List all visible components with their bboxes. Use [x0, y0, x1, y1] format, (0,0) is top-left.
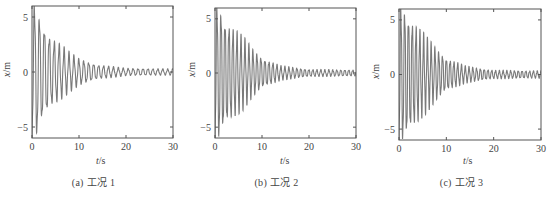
y-axis-label: x/m — [370, 64, 381, 79]
subplot-c: 0102030−505 — [0, 0, 183, 197]
caption-c: (c) 工况 3 — [370, 174, 549, 189]
x-axis-label: t/s — [463, 155, 472, 166]
subplot-c-labels: t/s x/m (c) 工况 3 — [366, 0, 549, 197]
